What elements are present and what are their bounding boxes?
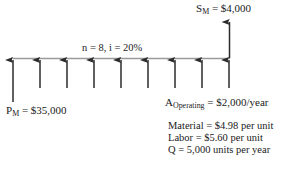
principal-cost-label: PM = $35,000 <box>6 104 67 119</box>
cash-flow-diagram: SM = $4,000 n = 8, i = 20% PM = $35,000 … <box>0 0 289 175</box>
principal-subscript: M <box>12 109 19 118</box>
principal-value: = $35,000 <box>22 104 67 116</box>
unit-cost-list: Material = $4.98 per unit Labor = $5.60 … <box>168 120 273 155</box>
unit-cost-labor: Labor = $5.60 per unit <box>168 132 273 144</box>
unit-cost-material: Material = $4.98 per unit <box>168 120 273 132</box>
salvage-value: = $4,000 <box>212 2 251 14</box>
operating-value: = $2,000/year <box>207 96 268 108</box>
operating-cost-label: AOperating = $2,000/year <box>165 96 269 111</box>
period-interest-label: n = 8, i = 20% <box>82 42 142 54</box>
operating-symbol: A <box>165 96 173 108</box>
salvage-value-label: SM = $4,000 <box>196 2 251 17</box>
unit-cost-quantity: Q = 5,000 units per year <box>168 144 273 156</box>
operating-subscript: Operating <box>173 101 205 110</box>
salvage-subscript: M <box>202 7 209 16</box>
